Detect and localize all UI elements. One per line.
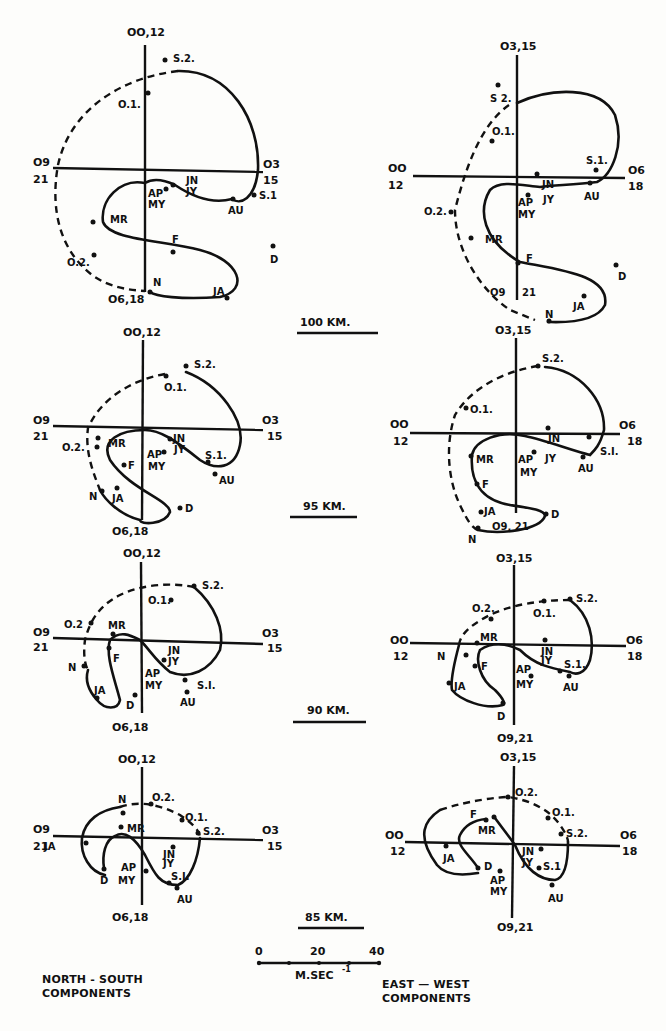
svg-text:F: F: [172, 234, 179, 245]
svg-text:21: 21: [33, 641, 48, 654]
svg-text:S.I.: S.I.: [600, 446, 619, 457]
svg-text:D: D: [618, 271, 626, 282]
svg-text:JN: JN: [541, 179, 554, 190]
svg-text:OO: OO: [390, 634, 409, 647]
svg-text:O6,18: O6,18: [112, 911, 149, 924]
svg-text:MY: MY: [118, 875, 136, 886]
svg-text:JY: JY: [544, 453, 557, 464]
svg-text:JA: JA: [453, 681, 466, 692]
svg-text:OO,12: OO,12: [123, 326, 161, 339]
svg-text:12: 12: [390, 845, 405, 858]
svg-text:O.1.: O.1.: [552, 807, 575, 818]
svg-text:MR: MR: [480, 632, 498, 643]
svg-text:O6: O6: [620, 829, 637, 842]
panel-ns-85km: OO,12 O9 21 O3 15 O6,18 JA N O.2. O.1. S…: [33, 753, 282, 924]
svg-text:S.2.: S.2.: [194, 359, 216, 370]
svg-text:40: 40: [369, 945, 385, 958]
svg-text:JA: JA: [572, 301, 585, 312]
svg-text:MR: MR: [476, 454, 494, 465]
svg-text:N: N: [118, 794, 126, 805]
svg-text:O9,21: O9,21: [497, 732, 534, 745]
svg-text:O9: O9: [33, 156, 50, 169]
svg-text:O6: O6: [619, 419, 636, 432]
svg-text:D: D: [270, 254, 278, 265]
svg-text:15: 15: [267, 642, 282, 655]
svg-text:21: 21: [33, 173, 48, 186]
svg-text:N: N: [468, 534, 476, 545]
svg-text:AU: AU: [584, 191, 600, 202]
altitude-label-90: 90 KM.: [307, 704, 350, 717]
svg-text:O.1.: O.1.: [492, 126, 515, 137]
svg-text:F: F: [526, 253, 533, 264]
svg-text:O.1.: O.1.: [148, 595, 171, 606]
svg-text:18: 18: [622, 845, 637, 858]
svg-text:N: N: [153, 277, 161, 288]
svg-text:AP: AP: [516, 664, 531, 675]
svg-text:18: 18: [627, 435, 642, 448]
caption-east-west: EAST — WEST COMPONENTS: [382, 978, 471, 1006]
altitude-label-95: 95 KM.: [303, 500, 346, 513]
svg-text:AU: AU: [228, 205, 244, 216]
svg-text:JY: JY: [173, 444, 186, 455]
svg-text:MY: MY: [490, 886, 508, 897]
altitude-label-100: 100 KM.: [300, 316, 350, 329]
svg-text:F: F: [128, 460, 135, 471]
altitude-labels: 100 KM. 95 KM. 90 KM. 85 KM.: [290, 316, 378, 928]
svg-text:D: D: [185, 503, 193, 514]
svg-text:MR: MR: [108, 620, 126, 631]
svg-text:AU: AU: [177, 894, 193, 905]
svg-text:JN: JN: [172, 433, 185, 444]
svg-text:D: D: [551, 509, 559, 520]
svg-text:21: 21: [33, 430, 48, 443]
svg-text:JA: JA: [93, 685, 106, 696]
svg-text:O3: O3: [263, 158, 280, 171]
svg-text:JA: JA: [483, 506, 496, 517]
svg-text:D: D: [100, 875, 108, 886]
svg-text:MY: MY: [148, 199, 166, 210]
axis-label-top: OO,12: [127, 26, 165, 39]
svg-text:AU: AU: [563, 682, 579, 693]
panel-ew-90km: O3,15 OO 12 O6 18 O9,21 S.2. O.1. O.2. M…: [390, 552, 643, 745]
hodograph-figure: .ax { stroke:#111; stroke-width:2.4; fil…: [0, 0, 666, 1031]
svg-text:O.2.: O.2.: [152, 792, 175, 803]
svg-text:JY: JY: [185, 186, 198, 197]
svg-text:MY: MY: [520, 467, 538, 478]
svg-text:OO,12: OO,12: [123, 547, 161, 560]
svg-text:15: 15: [263, 174, 278, 187]
svg-text:O3,15: O3,15: [496, 552, 533, 565]
svg-text:S 2.: S 2.: [490, 93, 511, 104]
svg-text:F: F: [113, 653, 120, 664]
svg-text:O.1.: O.1.: [118, 99, 141, 110]
svg-text:N: N: [545, 309, 553, 320]
svg-text:MR: MR: [478, 825, 496, 836]
svg-text:AU: AU: [180, 697, 196, 708]
svg-text:JA: JA: [442, 853, 455, 864]
svg-text:AP: AP: [518, 454, 533, 465]
svg-text:JY: JY: [521, 857, 534, 868]
svg-text:MY: MY: [148, 461, 166, 472]
svg-text:AP: AP: [121, 862, 136, 873]
svg-text:18: 18: [628, 180, 643, 193]
svg-text:12: 12: [388, 179, 403, 192]
panel-ew-85km: O3,15 OO 12 O6 18 O9,21 O.2. O.1. S.2. F…: [385, 751, 637, 934]
svg-text:O3,15: O3,15: [500, 751, 537, 764]
svg-text:JY: JY: [167, 656, 180, 667]
svg-text:O.2.: O.2.: [62, 442, 85, 453]
svg-text:N: N: [68, 662, 76, 673]
svg-text:S.1.: S.1.: [586, 155, 608, 166]
svg-text:AU: AU: [219, 475, 235, 486]
svg-text:O9: O9: [33, 414, 50, 427]
svg-text:O6,18: O6,18: [112, 721, 149, 734]
svg-text:S.1: S.1: [259, 190, 277, 201]
svg-text:O9: O9: [490, 287, 506, 298]
svg-text:AP: AP: [147, 449, 162, 460]
svg-text:OO: OO: [390, 418, 409, 431]
svg-text:AP: AP: [148, 188, 163, 199]
svg-text:O3: O3: [262, 824, 279, 837]
svg-text:N: N: [437, 651, 445, 662]
svg-text:O6,18: O6,18: [108, 293, 145, 306]
svg-text:JY: JY: [542, 194, 555, 205]
svg-text:O3: O3: [262, 414, 279, 427]
svg-text:OO,12: OO,12: [118, 753, 156, 766]
svg-text:S.2.: S.2.: [566, 828, 588, 839]
